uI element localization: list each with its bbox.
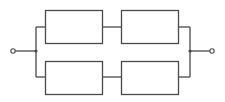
diagram-canvas: [0, 0, 225, 102]
block-bottom-right: [122, 62, 179, 95]
junction-dot-right: [188, 49, 191, 52]
block-top-left: [46, 11, 103, 44]
terminal-input-icon: [11, 49, 15, 53]
reliability-block-diagram: [0, 0, 225, 102]
junction-dot-left: [34, 49, 37, 52]
terminal-output-icon: [210, 49, 214, 53]
block-top-right: [122, 11, 179, 44]
block-bottom-left: [46, 62, 103, 95]
